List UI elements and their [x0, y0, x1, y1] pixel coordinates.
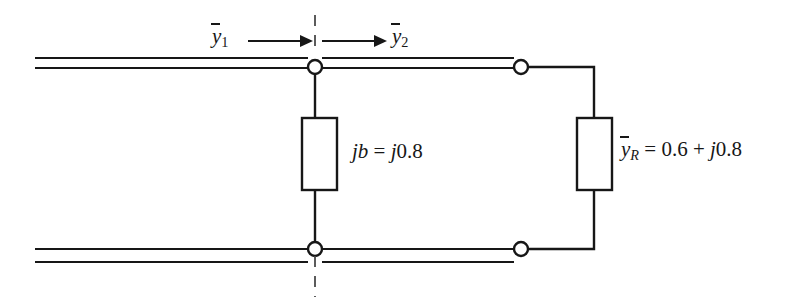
y1-direction-arrow: [248, 35, 313, 47]
load-bottom-connection-wire: [528, 190, 594, 249]
circuit-diagram-figure: y1 y2 jb = j0.8 yR = 0.6 + j0.8: [0, 0, 785, 307]
y1-subscript: 1: [221, 34, 228, 50]
yr-subscript: R: [630, 147, 639, 163]
yr-symbol: y: [621, 139, 630, 160]
jb-symbol: jb: [352, 139, 368, 163]
bottom-load-node: [514, 242, 528, 256]
y2-subscript: 2: [401, 34, 408, 50]
yr-imag-number: 0.8: [716, 137, 742, 161]
transmitted-admittance-label: y2: [392, 26, 408, 49]
top-junction-node: [308, 60, 322, 74]
jb-value-number: 0.8: [397, 139, 423, 163]
top-load-node: [514, 60, 528, 74]
load-top-connection-wire: [528, 67, 594, 118]
y1-symbol: y: [212, 26, 221, 47]
yr-equals: =: [644, 137, 656, 161]
yr-real-part: 0.6: [661, 137, 687, 161]
load-admittance-label: yR = 0.6 + j0.8: [621, 139, 742, 162]
load-admittance-box: [577, 118, 612, 190]
incident-admittance-label: y1: [212, 26, 228, 49]
yr-plus: +: [693, 137, 705, 161]
jb-equals: =: [374, 139, 386, 163]
y2-direction-arrow: [322, 35, 387, 47]
bottom-junction-node: [308, 242, 322, 256]
shunt-susceptance-box: [302, 118, 337, 190]
shunt-susceptance-label: jb = j0.8: [352, 141, 423, 162]
y2-symbol: y: [392, 26, 401, 47]
